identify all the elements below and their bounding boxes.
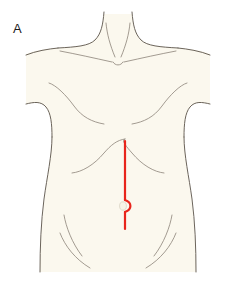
umbilicus-mark	[120, 202, 127, 210]
torso-illustration	[0, 0, 236, 290]
torso-body-group	[26, 14, 210, 272]
umbilicus-group	[120, 202, 127, 210]
torso-silhouette	[26, 14, 210, 272]
figure-panel: A	[0, 0, 236, 290]
panel-label: A	[13, 22, 22, 35]
